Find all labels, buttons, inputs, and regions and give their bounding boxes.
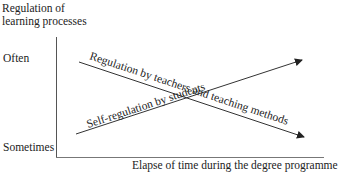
teacher-regulation-line xyxy=(79,62,304,137)
x-axis-label: Elapse of time during the degree program… xyxy=(132,159,338,171)
self-regulation-label: Self-regulation by students xyxy=(85,80,207,131)
